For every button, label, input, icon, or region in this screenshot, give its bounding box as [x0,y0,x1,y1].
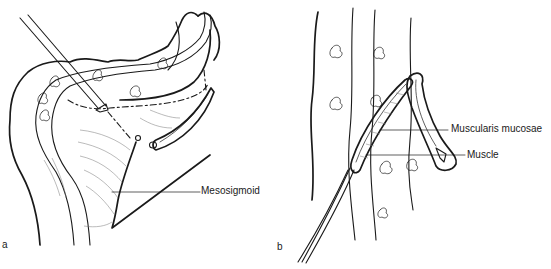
panel-letter-a: a [2,240,8,250]
label-muscle: Muscle [467,150,499,160]
label-mesosigmoid: Mesosigmoid [201,186,260,196]
panel-b-drawing [298,8,465,263]
panel-letter-b: b [277,242,283,252]
panel-a-drawing [10,12,220,245]
label-muscularis-mucosae: Muscularis mucosae [451,124,542,134]
figure-illustration [0,0,551,269]
